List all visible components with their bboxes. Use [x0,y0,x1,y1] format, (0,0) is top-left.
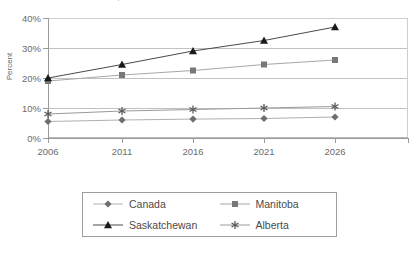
diamond-marker [44,118,51,125]
legend-item-label: Canada [125,198,166,210]
diamond-icon [91,197,125,211]
series-alberta [45,103,339,119]
diamond-marker [331,113,338,120]
diamond-marker [104,200,111,207]
legend-item-manitoba[interactable]: Manitoba [210,197,337,211]
square-marker [119,72,125,78]
legend-item-saskatchewan[interactable]: Saskatchewan [83,218,210,232]
square-marker [332,57,338,63]
triangle-icon [91,218,125,232]
square-marker [232,201,238,207]
square-icon [218,197,252,211]
diamond-marker [118,116,125,123]
square-marker [261,62,267,68]
legend-item-label: Manitoba [252,198,299,210]
legend-item-canada[interactable]: Canada [83,197,210,211]
triangle-marker [331,23,339,30]
legend-item-label: Alberta [252,219,289,231]
square-marker [190,68,196,74]
chart-legend: CanadaManitobaSaskatchewanAlberta [82,192,337,237]
diamond-marker [189,116,196,123]
legend-item-alberta[interactable]: Alberta [210,218,337,232]
line-chart: Prairie Provinces, 2006-2026 Percent 0%1… [0,0,419,253]
diamond-marker [260,115,267,122]
asterisk-icon [218,218,252,232]
legend-item-label: Saskatchewan [125,219,197,231]
series-canada [44,113,338,125]
